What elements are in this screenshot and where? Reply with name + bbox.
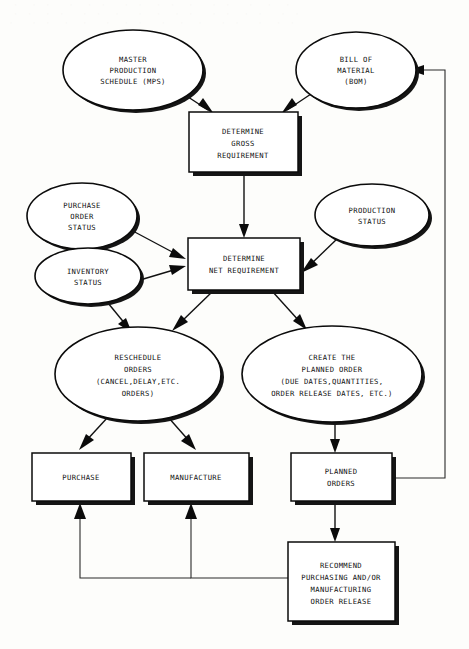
node-manufacture[interactable]: MANUFACTURE: [144, 453, 253, 505]
edge-create-to-planned-orders: [330, 422, 340, 453]
edge-reschedule-to-purchase: [79, 417, 108, 450]
po-status-label-line-3: STATUS: [68, 223, 96, 232]
prod-status-label-line-1: PRODUCTION: [349, 206, 396, 215]
reschedule-label-line-1: RESCHEDULE: [115, 353, 162, 362]
node-layer: MASTER PRODUCTION SCHEDULE (MPS) BILL OF…: [27, 30, 432, 625]
edge-prod-status-to-net: [301, 238, 338, 273]
gross-label-line-1: DETERMINE: [222, 127, 264, 136]
planned-orders-label-line-1: PLANNED: [325, 467, 358, 476]
edge-reschedule-to-manufacture: [168, 417, 196, 450]
reschedule-label-line-2: ORDERS: [124, 365, 152, 374]
edge-net-to-reschedule: [172, 291, 213, 331]
node-purchase[interactable]: PURCHASE: [32, 453, 135, 505]
mps-label-line-3: SCHEDULE (MPS): [100, 77, 165, 86]
planned-orders-label-line-2: ORDERS: [327, 479, 355, 488]
recommend-label-line-2: PURCHASING AND/OR: [301, 573, 381, 582]
inventory-label-line-1: INVENTORY: [67, 267, 109, 276]
node-determine-net-requirement[interactable]: DETERMINE NET REQUIREMENT: [188, 238, 304, 294]
edge-bom-to-gross: [281, 94, 311, 114]
manufacture-label: MANUFACTURE: [170, 473, 221, 482]
create-label-line-4: ORDER RELEASE DATES, ETC.): [271, 389, 393, 398]
create-label-line-3: (DUE DATES,QUANTITIES,: [281, 377, 384, 386]
bom-label-line-1: BILL OF: [340, 55, 373, 64]
gross-label-line-3: REQUIREMENT: [217, 151, 269, 160]
create-label-line-1: CREATE THE: [309, 353, 356, 362]
node-recommend-order-release[interactable]: RECOMMEND PURCHASING AND/OR MANUFACTURIN…: [288, 542, 399, 625]
inventory-label-line-2: STATUS: [74, 278, 102, 287]
node-master-production-schedule[interactable]: MASTER PRODUCTION SCHEDULE (MPS): [63, 30, 206, 113]
edge-planned-orders-to-bom-feedback: [392, 65, 445, 478]
edge-inventory-to-net: [140, 265, 186, 280]
node-reschedule-orders[interactable]: RESCHEDULE ORDERS (CANCEL,DELAY,ETC. ORD…: [55, 327, 224, 424]
node-create-the-planned-order[interactable]: CREATE THE PLANNED ORDER (DUE DATES,QUAN…: [242, 326, 425, 425]
recommend-label-line-4: ORDER RELEASE: [311, 597, 372, 606]
node-inventory-status[interactable]: INVENTORY STATUS: [35, 248, 144, 307]
bom-label-line-2: MATERIAL: [337, 66, 374, 75]
node-purchase-order-status[interactable]: PURCHASE ORDER STATUS: [27, 183, 140, 252]
prod-status-label-line-2: STATUS: [358, 217, 386, 226]
po-status-label-line-2: ORDER: [70, 212, 94, 221]
node-determine-gross-requirement[interactable]: DETERMINE GROSS REQUIREMENT: [189, 112, 302, 176]
node-bill-of-material[interactable]: BILL OF MATERIAL (BOM): [296, 32, 419, 111]
edge-net-to-create: [272, 291, 307, 330]
create-label-line-2: PLANNED ORDER: [302, 365, 363, 374]
edge-gross-to-net: [239, 174, 249, 238]
recommend-label-line-1: RECOMMEND: [320, 561, 362, 570]
edge-recommend-to-manufacture: [185, 503, 288, 578]
flowchart-page: · · · · · · · · · · · · · · · · · · · · …: [0, 0, 469, 649]
net-label-line-1: DETERMINE: [223, 254, 265, 263]
node-planned-orders[interactable]: PLANNED ORDERS: [291, 453, 396, 505]
net-label-line-2: NET REQUIREMENT: [209, 266, 279, 275]
purchase-label: PURCHASE: [62, 473, 99, 482]
po-status-label-line-1: PURCHASE: [63, 201, 100, 210]
gross-label-line-2: GROSS: [231, 139, 254, 148]
mps-label-line-1: MASTER: [119, 55, 147, 64]
reschedule-label-line-3: (CANCEL,DELAY,ETC.: [96, 377, 180, 386]
node-production-status[interactable]: PRODUCTION STATUS: [315, 184, 432, 249]
flowchart-canvas: MASTER PRODUCTION SCHEDULE (MPS) BILL OF…: [0, 0, 469, 649]
edge-planned-orders-to-recommend: [330, 503, 340, 542]
bom-label-line-3: (BOM): [344, 77, 367, 86]
mps-label-line-2: PRODUCTION: [110, 66, 157, 75]
recommend-label-line-3: MANUFACTURING: [311, 585, 372, 594]
edge-po-status-to-net: [131, 230, 186, 259]
reschedule-label-line-4: ORDERS): [122, 389, 155, 398]
edge-recommend-to-purchase: [74, 503, 191, 578]
